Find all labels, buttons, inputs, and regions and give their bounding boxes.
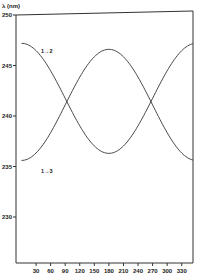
x-tick-label: 150 xyxy=(89,268,100,274)
y-tick-label: 245 xyxy=(2,63,13,69)
x-tick-label: 120 xyxy=(75,268,86,274)
x-axis-ticks: 306090120150180210240270300330 xyxy=(33,263,188,274)
annotation-1-3: 1→3 xyxy=(41,168,53,174)
wavelength-chart: 230235240245250 306090120150180210240270… xyxy=(0,0,199,275)
y-axis-label: λ (nm) xyxy=(2,3,20,9)
annotation-1-2: 1→2 xyxy=(41,48,53,54)
x-tick-label: 90 xyxy=(62,268,69,274)
x-tick-label: 270 xyxy=(148,268,159,274)
x-tick-label: 330 xyxy=(177,268,188,274)
x-tick-label: 180 xyxy=(104,268,115,274)
data-series xyxy=(22,43,197,160)
x-tick-label: 240 xyxy=(133,268,144,274)
y-tick-label: 235 xyxy=(2,164,13,170)
y-axis-ticks: 230235240245250 xyxy=(2,12,16,220)
x-tick-label: 60 xyxy=(47,268,54,274)
y-tick-label: 250 xyxy=(2,12,13,18)
y-tick-label: 230 xyxy=(2,214,13,220)
y-tick-label: 240 xyxy=(2,113,13,119)
x-tick-label: 210 xyxy=(118,268,129,274)
curve-annotations: 1→21→3 xyxy=(41,48,53,173)
x-tick-label: 30 xyxy=(33,268,40,274)
x-tick-label: 300 xyxy=(162,268,173,274)
